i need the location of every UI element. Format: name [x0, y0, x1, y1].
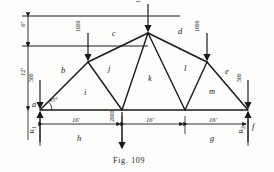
- member-label-b: b: [61, 66, 65, 75]
- dimension-span-1: 16': [72, 117, 80, 124]
- reaction-right-sub: 2: [240, 126, 246, 129]
- load-value-left: 1000: [75, 21, 81, 32]
- member-label-c: c: [112, 29, 116, 38]
- figure-canvas: b c d e i j k l m h g a f 1000 1000 1000…: [0, 0, 274, 172]
- member-label-m: m: [209, 87, 215, 96]
- figure-caption: Fig. 109: [113, 157, 145, 165]
- reaction-label-left: R1: [29, 126, 38, 134]
- member-label-d: d: [178, 27, 182, 36]
- load-value-end-left: 500: [28, 74, 34, 82]
- member-label-j: j: [108, 64, 110, 73]
- dimension-12ft: 12': [20, 68, 27, 76]
- member-label-l: l: [184, 64, 186, 73]
- load-arrows: [40, 4, 248, 148]
- member-label-g: g: [210, 134, 214, 143]
- truss-web-members: [88, 33, 207, 110]
- load-value-right: 1000: [194, 21, 200, 32]
- reaction-left-sub: 1: [31, 126, 37, 129]
- reaction-label-right: R2: [238, 126, 247, 134]
- member-label-h: h: [77, 134, 81, 143]
- node-label-f: f: [252, 122, 254, 131]
- dimension-span-2: 16': [146, 117, 154, 124]
- load-value-bottom-mid: 2000: [109, 111, 115, 122]
- dimension-span-3: 16': [209, 117, 217, 124]
- dimension-6ft: 6': [20, 22, 27, 27]
- node-label-a: a: [32, 100, 36, 109]
- truss-drawing: [0, 0, 274, 172]
- angle-label-45: 45°: [49, 97, 57, 103]
- member-label-e: e: [225, 67, 229, 76]
- member-label-k: k: [148, 74, 152, 83]
- load-value-end-right: 500: [236, 74, 242, 82]
- reaction-left-letter: R: [28, 129, 36, 134]
- load-value-apex: 1000: [135, 0, 141, 3]
- reaction-right-letter: R: [237, 129, 245, 134]
- member-label-i: i: [84, 88, 86, 97]
